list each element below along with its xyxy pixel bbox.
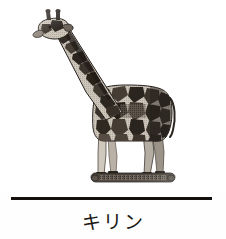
figure-page: キリン	[0, 0, 226, 239]
figure-image-container	[0, 0, 226, 192]
caption-container: キリン	[0, 205, 226, 239]
scan-vignette	[0, 0, 226, 192]
figure-caption: キリン	[82, 210, 145, 234]
giraffe-photograph	[0, 0, 226, 192]
horizontal-rule	[11, 197, 212, 200]
